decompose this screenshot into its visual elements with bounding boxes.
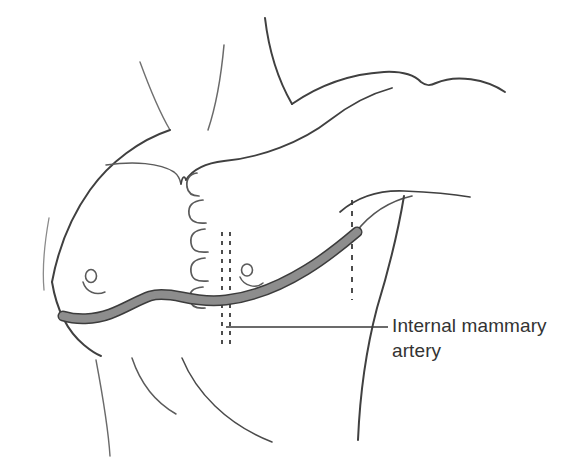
figure-background (0, 0, 587, 470)
artery-label-line-2: artery (392, 338, 441, 363)
anatomy-illustration (0, 0, 587, 470)
artery-label-line-1: Internal mammary (392, 313, 547, 338)
anatomical-figure: Internal mammary artery (0, 0, 587, 470)
